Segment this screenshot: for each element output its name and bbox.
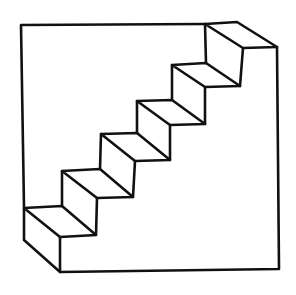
- step-back-riser-3: [100, 134, 101, 169]
- step-tread-5: [172, 63, 240, 87]
- step-tread-4: [137, 100, 205, 125]
- step-back-riser-6: [205, 24, 206, 63]
- outer-frame: [21, 24, 279, 272]
- step-front-riser-2: [96, 198, 97, 235]
- steps-group: [24, 22, 277, 272]
- schroder-stairs-figure: [0, 0, 296, 295]
- step-front-riser-3: [133, 161, 135, 197]
- step-tread-3: [101, 133, 170, 161]
- step-tread-6: [205, 22, 277, 48]
- outer-frame-line: [21, 24, 279, 272]
- step-tread-1: [24, 206, 96, 237]
- step-front-riser-6: [240, 48, 243, 86]
- stairs-drawing: [0, 0, 296, 295]
- step-tread-2: [62, 169, 133, 198]
